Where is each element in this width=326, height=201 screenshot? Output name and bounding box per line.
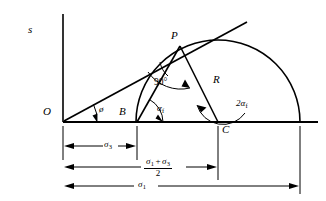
angle-label-right-angle: 90° (154, 78, 167, 88)
dim3-arrowhead-right (289, 183, 299, 189)
dim1-arrowhead-left (64, 143, 74, 149)
point-label-B: B (119, 106, 126, 117)
mohr-circle-figure: s O P B C R ø 90° αf 2αf σ3 σ1+σ3 2 σ1 (0, 0, 326, 201)
dim2-arrowhead-left (64, 164, 74, 170)
angle-arc-O-arrowhead (93, 114, 98, 123)
right-angle-arrowhead (182, 80, 191, 89)
fraction-denominator: 2 (144, 169, 172, 178)
failure-envelope-line (64, 22, 247, 121)
sigma1-subscript: 1 (142, 183, 146, 190)
angle-label-2alpha-f-at-C: 2αf (236, 99, 248, 109)
dimension-label-sigma-mean: σ1+σ3 2 (144, 157, 172, 178)
fraction-plus-operator: + (154, 156, 162, 166)
dim3-arrowhead-left (64, 183, 74, 189)
fraction-numerator: σ1+σ3 (144, 157, 172, 169)
sigma3-subscript-num: 3 (167, 160, 171, 167)
sigma3-symbol-num: σ (162, 156, 166, 166)
alpha-subscript-C: f (245, 102, 247, 109)
mean-stress-fraction: σ1+σ3 2 (144, 157, 172, 178)
point-label-C: C (222, 124, 229, 135)
dimension-label-sigma1: σ1 (138, 180, 146, 190)
dim2-arrowhead-right (207, 164, 217, 170)
alpha-subscript-B: f (162, 107, 164, 114)
radius-label-R: R (213, 74, 220, 85)
sigma3-subscript: 3 (108, 143, 112, 150)
s-axis-label: s (28, 24, 32, 35)
point-label-P: P (171, 30, 178, 41)
dim1-arrowhead-right (126, 143, 136, 149)
angle-label-alpha-f-at-B: αf (157, 104, 164, 114)
point-label-O: O (43, 106, 51, 117)
dimension-label-sigma3: σ3 (104, 140, 112, 150)
angle-label-phi-at-O: ø (99, 105, 104, 114)
